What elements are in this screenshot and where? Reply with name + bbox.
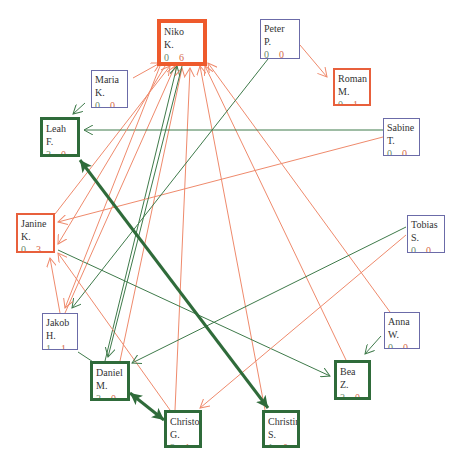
node-last-initial: S. xyxy=(268,428,295,441)
node-last-initial: P. xyxy=(264,35,297,48)
node-in-count: 0 xyxy=(411,245,416,253)
node-last-initial: F. xyxy=(46,135,75,148)
node-in-count: 1 xyxy=(268,442,273,448)
edge-christina-to-niko xyxy=(200,66,265,410)
node-first-name: Bea xyxy=(340,365,366,378)
node-counts: 00 xyxy=(264,48,297,59)
node-last-initial: S. xyxy=(411,231,442,244)
node-bea[interactable]: BeaZ.20 xyxy=(334,360,371,400)
node-counts: 06 xyxy=(164,51,201,64)
node-first-name: Janine xyxy=(21,217,51,230)
node-sabine[interactable]: SabineT.00 xyxy=(383,118,420,156)
node-first-name: Peter xyxy=(264,22,297,35)
node-counts: 03 xyxy=(21,243,51,253)
node-counts: 00 xyxy=(388,341,417,349)
node-last-initial: W. xyxy=(388,328,417,341)
node-out-count: 0 xyxy=(402,148,407,156)
edge-maria-to-leah xyxy=(73,103,85,114)
node-last-initial: K. xyxy=(164,38,201,51)
node-out-count: 0 xyxy=(110,100,115,108)
node-janine[interactable]: JanineK.03 xyxy=(16,213,55,253)
node-in-count: 2 xyxy=(170,442,175,448)
node-last-initial: T. xyxy=(387,134,417,147)
node-niko[interactable]: NikoK.06 xyxy=(157,19,207,66)
node-first-name: Maria xyxy=(95,73,125,86)
node-counts: 00 xyxy=(387,147,417,156)
node-christina[interactable]: ChristinaS.10 xyxy=(262,410,300,448)
node-first-name: Daniel xyxy=(96,366,125,379)
node-counts: 01 xyxy=(338,98,367,106)
bold-edge-daniel-christop xyxy=(130,393,164,420)
node-out-count: 0 xyxy=(283,442,288,448)
node-in-count: 0 xyxy=(95,100,100,108)
node-first-name: Roman xyxy=(338,72,367,85)
node-first-name: Christina xyxy=(268,415,295,428)
node-leah[interactable]: LeahF.30 xyxy=(40,117,80,157)
node-first-name: Anna xyxy=(388,315,417,328)
node-out-count: 0 xyxy=(355,392,360,400)
node-in-count: 0 xyxy=(338,99,343,106)
node-in-count: 3 xyxy=(46,149,51,157)
node-in-count: 0 xyxy=(388,342,393,349)
edge-peter-to-roman xyxy=(300,45,327,77)
node-last-initial: G. xyxy=(170,428,197,441)
node-last-initial: M. xyxy=(338,85,367,98)
node-jakob[interactable]: JakobH.11 xyxy=(42,313,78,350)
node-in-count: 0 xyxy=(387,148,392,156)
edge-anna-to-bea xyxy=(365,336,381,354)
node-last-initial: M. xyxy=(96,379,125,392)
node-counts: 00 xyxy=(95,99,125,108)
node-christop[interactable]: ChristopG.21 xyxy=(164,410,202,448)
node-out-count: 0 xyxy=(426,245,431,253)
node-out-count: 1 xyxy=(353,99,358,106)
node-counts: 21 xyxy=(170,441,197,448)
node-first-name: Tobias xyxy=(411,218,442,231)
node-first-name: Sabine xyxy=(387,121,417,134)
edge-sabine-to-janine xyxy=(58,137,383,222)
node-counts: 30 xyxy=(96,392,125,401)
node-in-count: 1 xyxy=(46,343,51,350)
node-last-initial: K. xyxy=(95,86,125,99)
node-last-initial: H. xyxy=(46,329,75,342)
edge-jakob-to-janine xyxy=(50,258,60,313)
node-maria[interactable]: MariaK.00 xyxy=(91,70,128,108)
edge-christop-to-niko xyxy=(175,68,190,410)
node-counts: 20 xyxy=(340,391,366,400)
node-out-count: 0 xyxy=(61,149,66,157)
node-in-count: 0 xyxy=(21,244,26,253)
node-out-count: 6 xyxy=(179,52,184,63)
node-in-count: 0 xyxy=(264,49,269,59)
node-tobias[interactable]: TobiasS.00 xyxy=(407,215,445,253)
node-counts: 10 xyxy=(268,441,295,448)
edge-janine-to-bea xyxy=(58,250,330,376)
network-diagram xyxy=(0,0,460,465)
edge-daniel-to-niko xyxy=(120,68,182,361)
node-counts: 11 xyxy=(46,342,75,350)
node-last-initial: K. xyxy=(21,230,51,243)
node-in-count: 3 xyxy=(96,393,101,401)
node-last-initial: Z. xyxy=(340,378,366,391)
node-out-count: 3 xyxy=(36,244,41,253)
node-out-count: 0 xyxy=(111,393,116,401)
node-first-name: Niko xyxy=(164,25,201,38)
node-in-count: 0 xyxy=(164,52,169,63)
node-counts: 00 xyxy=(411,244,442,253)
node-out-count: 1 xyxy=(61,343,66,350)
edge-tobias-to-daniel xyxy=(132,227,406,363)
node-daniel[interactable]: DanielM.30 xyxy=(90,361,130,401)
edge-daniel-to-niko xyxy=(105,66,177,361)
node-first-name: Christop xyxy=(170,415,197,428)
node-counts: 30 xyxy=(46,148,75,157)
node-roman[interactable]: RomanM.01 xyxy=(333,68,371,106)
node-peter[interactable]: PeterP.00 xyxy=(260,19,300,59)
node-out-count: 0 xyxy=(403,342,408,349)
node-first-name: Leah xyxy=(46,122,75,135)
node-in-count: 2 xyxy=(340,392,345,400)
node-out-count: 0 xyxy=(279,49,284,59)
edge-tobias-to-christop xyxy=(200,235,406,408)
node-first-name: Jakob xyxy=(46,316,75,329)
node-out-count: 1 xyxy=(185,442,190,448)
node-anna[interactable]: AnnaW.00 xyxy=(384,312,420,349)
